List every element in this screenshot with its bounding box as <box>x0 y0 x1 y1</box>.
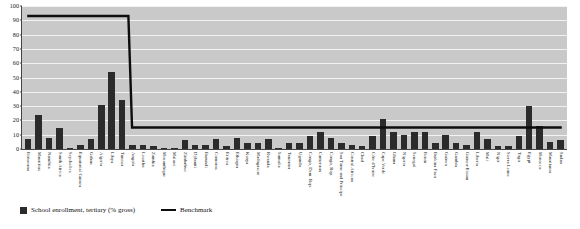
bar <box>119 100 125 149</box>
bar <box>108 72 114 149</box>
bar-slot <box>399 6 409 149</box>
bar <box>88 139 94 149</box>
bar-slot <box>441 6 451 149</box>
x-axis-label-slot: Namibia <box>44 151 54 197</box>
x-axis-tick-label: Djibouti <box>193 152 198 168</box>
bar <box>234 138 240 149</box>
x-axis-label-slot: Senegal <box>409 151 419 197</box>
x-axis-label-slot: Togo <box>514 151 524 197</box>
bar-slot <box>96 6 106 149</box>
bar-slot <box>200 6 210 149</box>
x-axis-label-slot: Zimbabwe <box>180 151 190 197</box>
x-axis-tick-label: Equatorial Guinea <box>78 152 83 187</box>
x-axis-tick-label: Chad <box>360 152 365 162</box>
bar <box>526 106 532 149</box>
bar <box>307 136 313 149</box>
bar-slot <box>221 6 231 149</box>
x-axis-label-slot: Burkina Faso <box>430 151 440 197</box>
x-axis-label-slot: Sierra Leone <box>503 151 513 197</box>
x-axis-tick-label: Mali <box>485 152 490 161</box>
x-axis-label-slot: Angola <box>127 151 137 197</box>
bar-slot <box>514 6 524 149</box>
bar <box>390 132 396 149</box>
x-axis-label-slot: Gambia <box>451 151 461 197</box>
bar-slot <box>493 6 503 149</box>
x-axis-tick-label: Rwanda <box>266 152 271 168</box>
y-axis-tick-label: 0 <box>16 146 19 152</box>
x-axis-label-slot: Madagascar <box>253 151 263 197</box>
bar-slot <box>315 6 325 149</box>
x-axis-tick-label: Gambia <box>454 152 459 167</box>
x-axis-tick-label: Malawi <box>172 152 177 167</box>
y-axis-tick-label: 50 <box>13 74 19 80</box>
bar <box>98 105 104 149</box>
x-axis-label-slot: Mali <box>482 151 492 197</box>
x-axis-label-slot: Equatorial Guinea <box>75 151 85 197</box>
legend-swatch-line-icon <box>161 209 176 212</box>
y-axis-tick-label: 10 <box>13 132 19 138</box>
x-axis-tick-label: Botswana <box>26 152 31 171</box>
bar-slot <box>284 6 294 149</box>
x-axis-label-slot: Zambia <box>148 151 158 197</box>
x-axis-tick-label: Mauritius <box>36 152 41 171</box>
bar-slot <box>127 6 137 149</box>
bar <box>213 139 219 149</box>
x-axis-tick-label: Egypt <box>527 152 532 163</box>
bar-slot <box>388 6 398 149</box>
x-axis-tick-label: Seychelles <box>68 152 73 173</box>
x-axis-label-slot: Gabon <box>86 151 96 197</box>
x-axis-label-slot: Libya <box>107 151 117 197</box>
x-axis-tick-label: Nigeria <box>402 152 407 166</box>
x-axis-label-slot: Eritrea <box>221 151 231 197</box>
x-axis-label-slot: Ethiopia <box>232 151 242 197</box>
x-axis-tick-label: Zambia <box>151 152 156 167</box>
bar <box>401 135 407 149</box>
x-axis-tick-label: Burundi <box>203 152 208 168</box>
x-axis-label-slot: Morocco <box>534 151 544 197</box>
x-axis-label-slot: Ghana <box>388 151 398 197</box>
bar <box>516 136 522 149</box>
x-axis-tick-label: Mozambique <box>162 152 167 177</box>
x-axis-tick-label: Central African <box>349 152 354 182</box>
x-axis-tick-label: Niger <box>496 152 501 163</box>
bar <box>422 132 428 149</box>
x-axis-label-slot: Liberia <box>472 151 482 197</box>
x-axis-labels: BotswanaMauritiusNamibiaSouth AfricaSeyc… <box>22 151 567 197</box>
x-axis-tick-label: Guinea-Bissau <box>464 152 469 180</box>
bar-slot <box>482 6 492 149</box>
x-axis-label-slot: Sao Tome and Principe <box>336 151 346 197</box>
bar-slot <box>148 6 158 149</box>
bar <box>484 139 490 149</box>
bar-slot <box>420 6 430 149</box>
x-axis-tick-label: Tunisia <box>120 152 125 166</box>
x-axis-label-slot: Tanzania <box>284 151 294 197</box>
x-axis-tick-label: South Africa <box>57 152 62 177</box>
x-axis-label-slot: Chad <box>357 151 367 197</box>
x-axis-tick-label: Gabon <box>89 152 94 165</box>
bar <box>536 126 542 149</box>
x-axis-label-slot: Cape Verde <box>378 151 388 197</box>
x-axis-tick-label: Madagascar <box>256 152 261 175</box>
bar-slot <box>534 6 544 149</box>
bar <box>265 139 271 149</box>
bar-slot <box>232 6 242 149</box>
bar-slot <box>75 6 85 149</box>
bar-slot <box>180 6 190 149</box>
bar-slot <box>524 6 534 149</box>
x-axis-tick-label: Morocco <box>537 152 542 169</box>
bar-slot <box>367 6 377 149</box>
x-axis-label-slot: Côte d'Ivoire <box>367 151 377 197</box>
bar-slot <box>190 6 200 149</box>
x-axis-label-slot: Malawi <box>169 151 179 197</box>
bar-slot <box>211 6 221 149</box>
bar-slot <box>263 6 273 149</box>
bar-slot <box>107 6 117 149</box>
bar-series-layer <box>22 6 567 149</box>
x-axis-label-slot: Cameroon <box>315 151 325 197</box>
chart-container: 0102030405060708090100 BotswanaMauritius… <box>0 0 580 229</box>
x-axis-label-slot: Seychelles <box>65 151 75 197</box>
x-axis-label-slot: Nigeria <box>399 151 409 197</box>
bar <box>182 140 188 149</box>
x-axis-label-slot: Mozambique <box>159 151 169 197</box>
y-axis: 0102030405060708090100 <box>0 6 22 149</box>
